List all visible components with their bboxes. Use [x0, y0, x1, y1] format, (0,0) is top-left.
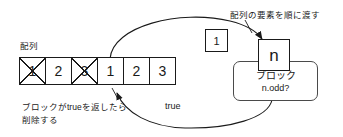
array-cell-0-value: 1: [29, 64, 37, 78]
array-cell-3-value: 1: [107, 64, 115, 78]
array-cell-1-value: 2: [55, 64, 63, 78]
counter-box-value: 1: [213, 35, 219, 47]
block-parameter-box: n: [258, 39, 290, 71]
diagram-canvas: 配列 1 2 3 1 2 3 1 n ブロック n.odd? 配列の要素を順に渡…: [0, 0, 343, 137]
array-container: 1 2 3 1 2 3: [19, 57, 176, 85]
counter-box: 1: [205, 29, 228, 52]
note-delete-if-true: ブロックがtrueを返したら 削除する: [22, 101, 127, 126]
edge-array-to-block: [110, 17, 262, 59]
array-cell-2[interactable]: 3: [72, 58, 98, 84]
array-cell-3[interactable]: 1: [98, 58, 124, 84]
edge-label-true: true: [165, 101, 181, 111]
block-parameter-value: n: [269, 47, 278, 64]
array-cell-1[interactable]: 2: [46, 58, 72, 84]
array-label: 配列: [20, 41, 38, 51]
note-pass-elements: 配列の要素を順に渡す: [230, 9, 320, 22]
array-cell-5[interactable]: 3: [150, 58, 175, 84]
array-cell-5-value: 3: [159, 64, 167, 78]
array-cell-4[interactable]: 2: [124, 58, 150, 84]
array-cell-0[interactable]: 1: [20, 58, 46, 84]
array-cell-2-value: 3: [81, 64, 89, 78]
array-cell-4-value: 2: [133, 64, 141, 78]
block-subtitle: n.odd?: [262, 82, 290, 94]
